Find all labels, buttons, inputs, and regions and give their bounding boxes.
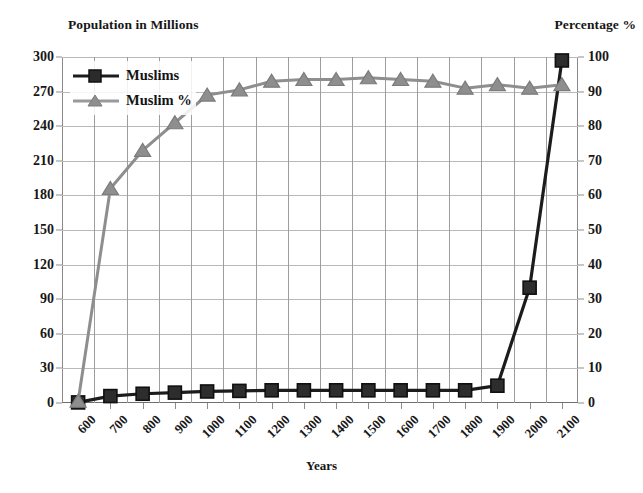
right-tick-label: 10 — [588, 360, 602, 376]
tick-mark-x — [336, 403, 337, 409]
data-point-square — [459, 384, 472, 397]
right-tick-label: 100 — [588, 49, 609, 65]
left-tick-label: 210 — [33, 153, 54, 169]
data-point-square — [104, 390, 117, 403]
left-tick-label: 30 — [40, 360, 54, 376]
legend-key-triangle-icon — [72, 93, 120, 109]
tick-mark-right — [578, 264, 584, 265]
tick-mark-right — [578, 403, 584, 404]
data-point-square — [233, 384, 246, 397]
data-point-square — [201, 385, 214, 398]
tick-mark-right — [578, 333, 584, 334]
tick-mark-right — [578, 230, 584, 231]
left-tick-label: 0 — [47, 395, 54, 411]
right-axis-title: Percentage % — [554, 17, 636, 33]
legend-key-square-icon — [72, 68, 120, 84]
data-point-square — [136, 387, 149, 400]
x-tick-label: 1100 — [231, 412, 260, 441]
tick-mark-right — [578, 91, 584, 92]
right-tick-label: 60 — [588, 187, 602, 203]
chart-legend: Muslims Muslim % — [70, 61, 196, 115]
x-tick-label: 600 — [74, 412, 99, 437]
x-tick-label: 1700 — [424, 412, 454, 442]
x-axis-title: Years — [0, 458, 643, 474]
right-tick-label: 50 — [588, 222, 602, 238]
tick-mark-right — [578, 126, 584, 127]
right-tick-label: 20 — [588, 326, 602, 342]
tick-mark-x — [401, 403, 402, 409]
data-point-square — [523, 281, 536, 294]
tick-mark-x — [304, 403, 305, 409]
legend-label-muslim-percent: Muslim % — [126, 92, 192, 109]
left-tick-label: 180 — [33, 187, 54, 203]
right-tick-label: 70 — [588, 153, 602, 169]
series-muslim-percent — [70, 71, 570, 408]
tick-mark-right — [578, 195, 584, 196]
x-tick-label: 700 — [107, 412, 132, 437]
right-tick-label: 90 — [588, 84, 602, 100]
left-tick-label: 120 — [33, 257, 54, 273]
tick-mark-x — [562, 403, 563, 409]
tick-mark-x — [465, 403, 466, 409]
tick-mark-x — [143, 403, 144, 409]
tick-mark-right — [578, 160, 584, 161]
series-line — [78, 78, 562, 402]
x-tick-label: 2100 — [553, 412, 583, 442]
x-tick-label: 1900 — [489, 412, 519, 442]
right-tick-label: 80 — [588, 118, 602, 134]
data-point-square — [362, 384, 375, 397]
x-tick-label: 1800 — [457, 412, 487, 442]
data-point-square — [330, 384, 343, 397]
legend-item-muslim-percent: Muslim % — [72, 88, 192, 113]
data-point-square — [297, 384, 310, 397]
data-point-square — [491, 379, 504, 392]
left-tick-label: 300 — [33, 49, 54, 65]
data-point-square — [265, 384, 278, 397]
tick-mark-right — [578, 57, 584, 58]
x-tick-label: 1200 — [263, 412, 293, 442]
data-point-square — [394, 384, 407, 397]
left-tick-label: 270 — [33, 84, 54, 100]
tick-mark-x — [530, 403, 531, 409]
chart-container: Population in Millions Percentage % 0306… — [0, 0, 643, 493]
x-tick-label: 1400 — [328, 412, 358, 442]
data-point-square — [555, 54, 568, 67]
plot-area: 0306090120150180210240270300 01020304050… — [62, 57, 578, 403]
data-point-square — [168, 386, 181, 399]
legend-item-muslims: Muslims — [72, 63, 192, 88]
right-tick-label: 40 — [588, 257, 602, 273]
left-tick-label: 90 — [40, 291, 54, 307]
left-tick-label: 150 — [33, 222, 54, 238]
left-axis-title: Population in Millions — [68, 17, 198, 33]
tick-mark-x — [433, 403, 434, 409]
x-tick-label: 1300 — [295, 412, 325, 442]
x-tick-label: 800 — [139, 412, 164, 437]
tick-mark-x — [368, 403, 369, 409]
data-point-square — [426, 384, 439, 397]
x-tick-label: 2000 — [521, 412, 551, 442]
right-tick-label: 30 — [588, 291, 602, 307]
tick-mark-x — [110, 403, 111, 409]
x-tick-label: 1500 — [360, 412, 390, 442]
tick-mark-x — [497, 403, 498, 409]
x-tick-label: 1600 — [392, 412, 422, 442]
x-tick-label: 1000 — [199, 412, 229, 442]
tick-mark-right — [578, 368, 584, 369]
left-tick-label: 60 — [40, 326, 54, 342]
tick-mark-right — [578, 299, 584, 300]
right-tick-label: 0 — [588, 395, 595, 411]
tick-mark-x — [272, 403, 273, 409]
left-tick-label: 240 — [33, 118, 54, 134]
legend-label-muslims: Muslims — [126, 67, 179, 84]
tick-mark-x — [175, 403, 176, 409]
tick-mark-x — [239, 403, 240, 409]
tick-mark-x — [207, 403, 208, 409]
x-tick-label: 900 — [171, 412, 196, 437]
